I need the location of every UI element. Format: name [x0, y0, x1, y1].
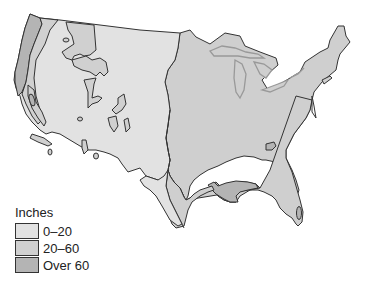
legend-label: 20–60	[43, 241, 79, 256]
gulf-wet-redraw	[208, 181, 258, 202]
legend-swatch-dry	[15, 223, 39, 239]
legend-swatch-wet	[15, 257, 39, 273]
legend: Inches 0–20 20–60 Over 60	[15, 205, 89, 274]
legend-label: Over 60	[43, 258, 89, 273]
legend-item-0-20: 0–20	[15, 223, 89, 240]
region-east-moderate	[165, 26, 350, 200]
socal-patch	[30, 134, 52, 146]
legend-item-20-60: 20–60	[15, 240, 89, 257]
legend-title: Inches	[15, 205, 89, 220]
legend-item-over-60: Over 60	[15, 257, 89, 274]
legend-swatch-moderate	[15, 240, 39, 256]
legend-label: 0–20	[43, 224, 72, 239]
